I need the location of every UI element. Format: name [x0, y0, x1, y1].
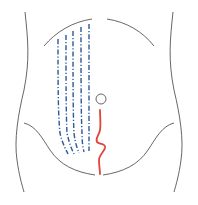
- left-costal-margin: [44, 19, 92, 46]
- umbilicus-icon: [96, 94, 106, 104]
- diagram-canvas: [0, 0, 198, 205]
- abdomen-diagram: [0, 0, 198, 205]
- dashed-line-3: [73, 31, 79, 153]
- dashed-lines-group: [58, 24, 89, 154]
- torso-left-outline: [16, 12, 28, 192]
- right-costal-margin: [107, 19, 154, 46]
- left-inguinal-curve: [24, 123, 95, 175]
- dashed-line-4: [81, 27, 84, 152]
- torso-right-outline: [170, 12, 182, 192]
- right-inguinal-curve: [103, 123, 174, 175]
- wavy-midline-incision: [96, 110, 105, 174]
